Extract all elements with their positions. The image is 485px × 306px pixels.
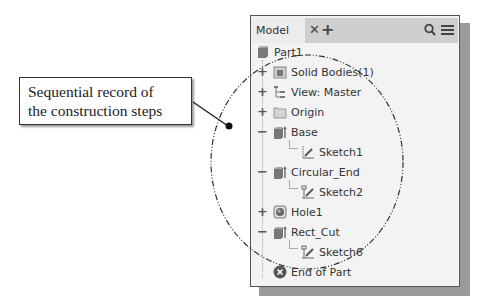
model-browser-panel: Model ✕ + Part1 Solid Bodies(1) + [250,15,460,287]
solid-bodies-icon [273,65,287,79]
sketch-icon [301,185,315,199]
tree-item-origin[interactable]: Origin [273,103,324,121]
tree-elbow [289,180,298,189]
hamburger-menu-icon[interactable] [441,24,454,36]
tree-item-part1[interactable]: Part1 [256,43,303,61]
callout-line-1: Sequential record of [28,82,191,101]
callout-box: Sequential record of the construction st… [19,77,192,125]
collapse-icon[interactable]: − [257,226,267,238]
part-icon [256,45,270,59]
tree-item-hole1[interactable]: Hole1 [273,203,323,221]
collapse-icon[interactable]: − [257,126,267,138]
extrusion-icon [273,125,287,139]
tree-item-sketch2[interactable]: Sketch2 [301,183,363,201]
expand-icon[interactable]: + [257,86,267,98]
close-icon[interactable]: ✕ [309,22,320,37]
tree-item-label: End of Part [291,266,351,279]
tree-item-sketch1[interactable]: Sketch1 [301,143,363,161]
leader-dot [226,123,233,130]
leader-line [193,102,228,126]
hole-icon [273,205,287,219]
callout-line-2: the construction steps [28,101,191,120]
tree-item-label: Hole1 [291,206,323,219]
tree-item-solid-bodies[interactable]: Solid Bodies(1) [273,63,374,81]
tree-item-view-master[interactable]: View: Master [273,83,361,101]
expand-icon[interactable]: + [257,106,267,118]
tree-item-label: View: Master [291,86,361,99]
tree-item-label: Sketch6 [319,246,363,259]
tab-model[interactable]: Model [251,18,305,43]
tree-elbow [289,240,298,249]
tree-item-label: Sketch1 [319,146,363,159]
sketch-icon [301,245,315,259]
folder-icon [273,105,287,119]
tree-item-base[interactable]: Base [273,123,318,141]
tab-model-label: Model [256,24,289,37]
tree-item-end-of-part[interactable]: End of Part [273,263,351,281]
sketch-icon [301,145,315,159]
tab-bar: Model ✕ + [251,18,458,43]
expand-icon[interactable]: + [257,66,267,78]
tree-item-sketch6[interactable]: Sketch6 [301,243,363,261]
end-of-part-icon [273,265,287,279]
extrusion-icon [273,225,287,239]
search-icon[interactable] [424,23,436,37]
tree-item-label: Part1 [274,46,303,59]
tree-elbow [289,140,298,149]
expand-icon[interactable]: + [257,206,267,218]
tree-item-label: Sketch2 [319,186,363,199]
collapse-icon[interactable]: − [257,166,267,178]
tree-item-label: Circular_End [291,166,360,179]
tree-item-label: Base [291,126,318,139]
tree-item-label: Rect_Cut [291,226,340,239]
extrusion-icon [273,165,287,179]
tree-item-rect-cut[interactable]: Rect_Cut [273,223,340,241]
tree-item-label: Solid Bodies(1) [291,66,374,79]
view-rep-icon [273,85,287,99]
tree-item-circular-end[interactable]: Circular_End [273,163,360,181]
tree-item-label: Origin [291,106,324,119]
plus-icon[interactable]: + [321,20,334,39]
